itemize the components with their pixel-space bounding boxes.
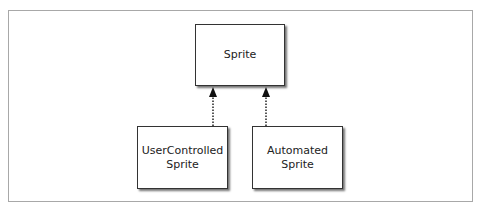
node-usercontrolled-label-line2: Sprite xyxy=(166,158,199,172)
node-sprite: Sprite xyxy=(195,24,285,86)
arrow-automated-to-sprite xyxy=(262,87,270,126)
node-usercontrolled-sprite: UserControlled Sprite xyxy=(137,126,228,189)
node-automated-sprite: Automated Sprite xyxy=(252,126,343,189)
node-automated-label-line2: Sprite xyxy=(281,158,314,172)
node-usercontrolled-label-line1: UserControlled xyxy=(142,144,224,158)
arrow-usercontrolled-to-sprite xyxy=(209,87,217,126)
node-automated-label-line1: Automated xyxy=(267,144,328,158)
node-sprite-label: Sprite xyxy=(224,48,257,62)
